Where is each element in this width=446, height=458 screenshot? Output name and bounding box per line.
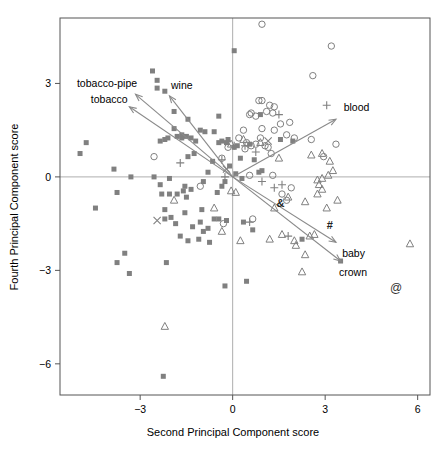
vector-label-crown: crown	[339, 266, 367, 278]
data-point-filled-square	[238, 156, 243, 161]
data-point-filled-square	[169, 215, 174, 220]
scatter-plot-canvas: −303630−3−6 @ tobacco-pipetobaccowineblo…	[0, 0, 446, 458]
data-point-filled-square	[212, 216, 217, 221]
data-point-filled-square	[198, 220, 203, 225]
data-point-filled-square	[167, 192, 172, 197]
data-point-filled-square	[201, 229, 206, 234]
data-point-filled-square	[244, 279, 249, 284]
x-tick-label: 6	[415, 403, 421, 415]
data-point-filled-square	[184, 195, 189, 200]
hash-annotation: #	[327, 219, 333, 231]
data-point-filled-square	[115, 190, 120, 195]
data-point-filled-square	[202, 129, 207, 134]
data-point-filled-square	[278, 137, 283, 142]
data-point-filled-square	[158, 182, 163, 187]
data-point-filled-square	[162, 216, 167, 221]
data-point-filled-square	[115, 260, 120, 265]
data-point-filled-square	[222, 283, 227, 288]
y-tick-label: 3	[45, 77, 51, 89]
y-axis-title: Fourth Principal Component score	[8, 124, 20, 291]
data-point-filled-square	[159, 192, 164, 197]
data-point-filled-square	[128, 174, 133, 179]
data-point-filled-square	[232, 48, 237, 53]
data-point-filled-square	[111, 167, 116, 172]
vector-label-wine: wine	[170, 79, 193, 91]
data-point-filled-square	[150, 68, 155, 73]
data-point-filled-square	[206, 170, 211, 175]
data-point-filled-square	[206, 226, 211, 231]
data-point-filled-square	[158, 139, 163, 144]
data-point-filled-square	[161, 374, 166, 379]
ampersand-annotation: &	[276, 197, 284, 209]
data-point-filled-square	[239, 176, 244, 181]
data-point-filled-square	[182, 184, 187, 189]
x-axis-title: Second Principal Component score	[147, 426, 319, 438]
data-point-filled-square	[84, 140, 89, 145]
data-point-filled-square	[250, 227, 255, 232]
data-point-filled-square	[173, 221, 178, 226]
data-point-filled-square	[162, 89, 167, 94]
data-point-filled-square	[199, 207, 204, 212]
data-point-filled-square	[207, 240, 212, 245]
data-point-filled-square	[164, 260, 169, 265]
data-point-filled-square	[226, 137, 231, 142]
data-point-filled-square	[162, 207, 167, 212]
x-tick-label: −3	[134, 403, 146, 415]
vector-label-baby: baby	[342, 247, 366, 259]
data-point-filled-square	[300, 237, 305, 242]
data-point-filled-square	[93, 206, 98, 211]
data-point-filled-square	[167, 176, 172, 181]
data-point-filled-square	[215, 190, 220, 195]
data-point-filled-square	[241, 220, 246, 225]
data-point-filled-square	[219, 184, 224, 189]
data-point-filled-square	[252, 157, 257, 162]
data-point-filled-square	[185, 238, 190, 243]
data-point-filled-square	[179, 135, 184, 140]
data-point-filled-square	[78, 151, 83, 156]
y-tick-label: −6	[39, 358, 51, 370]
data-point-filled-square	[216, 216, 221, 221]
y-tick-label: 0	[45, 171, 51, 183]
data-point-filled-square	[155, 86, 160, 91]
x-tick-label: 3	[322, 403, 328, 415]
data-point-filled-square	[162, 137, 167, 142]
vector-label-tobacco: tobacco	[91, 93, 128, 105]
data-point-filled-square	[259, 168, 264, 173]
data-point-filled-square	[216, 114, 221, 119]
vector-label-tobacco-pipe: tobacco-pipe	[77, 77, 137, 89]
data-point-filled-square	[185, 154, 190, 159]
pca-biplot-figure: −303630−3−6 @ tobacco-pipetobaccowineblo…	[0, 0, 446, 458]
data-point-filled-square	[182, 210, 187, 215]
data-point-filled-square	[122, 251, 127, 256]
data-point-filled-square	[152, 174, 157, 179]
data-point-filled-square	[178, 234, 183, 239]
data-point-filled-square	[189, 187, 194, 192]
data-point-filled-square	[212, 129, 217, 134]
data-point-at-symbol: @	[390, 281, 402, 295]
x-tick-label: 0	[230, 403, 236, 415]
data-point-filled-square	[190, 224, 195, 229]
data-point-filled-square	[193, 139, 198, 144]
data-point-filled-square	[172, 109, 177, 114]
data-point-filled-square	[219, 139, 224, 144]
y-tick-label: −3	[39, 264, 51, 276]
series-at-symbol: @	[390, 281, 402, 295]
data-point-filled-square	[155, 78, 160, 83]
data-point-filled-square	[127, 271, 132, 276]
data-point-filled-square	[175, 192, 180, 197]
data-point-filled-square	[181, 188, 186, 193]
data-point-filled-square	[198, 128, 203, 133]
data-point-filled-square	[196, 237, 201, 242]
vector-label-blood: blood	[344, 101, 370, 113]
